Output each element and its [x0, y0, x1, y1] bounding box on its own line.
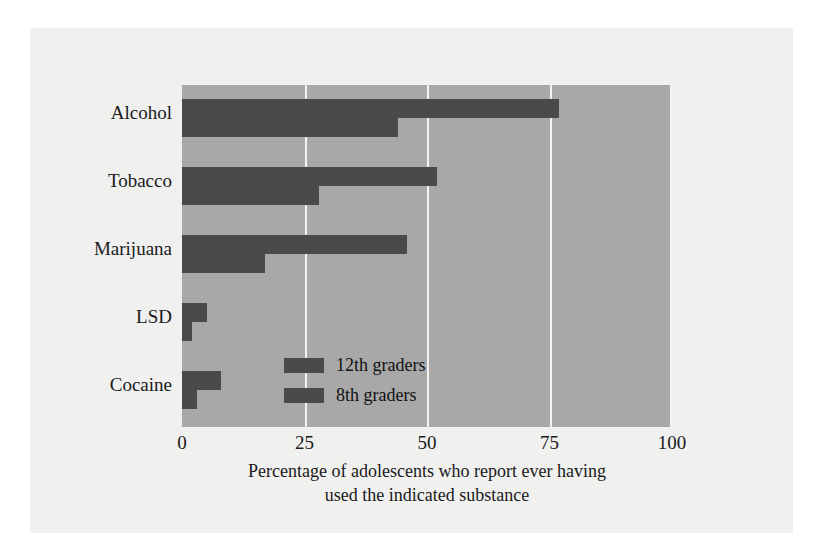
- bar-lsd-8th: [182, 322, 192, 341]
- legend-item-12th-graders: 12th graders: [284, 352, 425, 378]
- figure-page: Alcohol Tobacco Marijuana LSD Cocaine: [30, 28, 793, 533]
- bar-tobacco-8th: [182, 186, 319, 205]
- x-tick-50: 50: [418, 432, 437, 454]
- chart-legend: 12th graders 8th graders: [284, 352, 425, 412]
- category-label-marijuana: Marijuana: [32, 239, 172, 258]
- x-axis-title-line-2: used the indicated substance: [162, 484, 692, 508]
- plot-area: 12th graders 8th graders: [182, 85, 672, 427]
- gridline-50: [427, 85, 429, 427]
- category-label-alcohol: Alcohol: [32, 103, 172, 122]
- legend-swatch-12th-graders: [284, 358, 324, 373]
- legend-label-8th-graders: 8th graders: [336, 385, 416, 406]
- category-label-lsd: LSD: [32, 307, 172, 326]
- legend-swatch-8th-graders: [284, 388, 324, 403]
- bar-marijuana-8th: [182, 254, 265, 273]
- bar-tobacco-12th: [182, 167, 437, 186]
- category-label-tobacco: Tobacco: [32, 171, 172, 190]
- bar-alcohol-12th: [182, 99, 559, 118]
- legend-label-12th-graders: 12th graders: [336, 355, 425, 376]
- bar-cocaine-12th: [182, 371, 221, 390]
- x-axis-title: Percentage of adolescents who report eve…: [162, 460, 692, 508]
- category-label-cocaine: Cocaine: [32, 375, 172, 394]
- bar-lsd-12th: [182, 303, 207, 322]
- bar-alcohol-8th: [182, 118, 398, 137]
- category-axis: Alcohol Tobacco Marijuana LSD Cocaine: [30, 85, 172, 427]
- x-tick-25: 25: [295, 432, 314, 454]
- legend-item-8th-graders: 8th graders: [284, 382, 425, 408]
- x-axis-ticks: 0 25 50 75 100: [182, 432, 672, 458]
- x-tick-75: 75: [540, 432, 559, 454]
- x-tick-100: 100: [658, 432, 687, 454]
- x-axis-title-line-1: Percentage of adolescents who report eve…: [162, 460, 692, 484]
- gridline-75: [550, 85, 552, 427]
- bar-cocaine-8th: [182, 390, 197, 409]
- x-tick-0: 0: [177, 432, 187, 454]
- gridline-100: [670, 85, 672, 427]
- bar-marijuana-12th: [182, 235, 407, 254]
